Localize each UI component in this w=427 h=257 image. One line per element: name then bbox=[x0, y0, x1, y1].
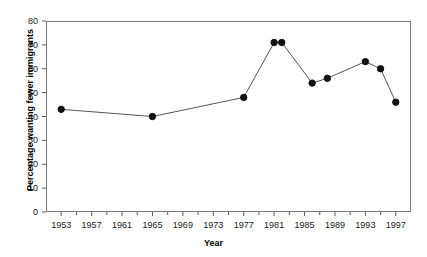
x-tick-label: 1969 bbox=[166, 221, 200, 230]
data-point-marker bbox=[393, 99, 399, 105]
x-tick-label: 1965 bbox=[135, 221, 169, 230]
data-point-marker bbox=[241, 94, 247, 100]
x-tick-label: 1981 bbox=[257, 221, 291, 230]
data-point-marker bbox=[58, 106, 64, 112]
x-tick-label: 1961 bbox=[105, 221, 139, 230]
x-tick-label: 1985 bbox=[288, 221, 322, 230]
x-tick-label: 1957 bbox=[75, 221, 109, 230]
x-tick-label: 1953 bbox=[44, 221, 78, 230]
data-point-marker bbox=[279, 39, 285, 45]
data-point-marker bbox=[377, 66, 383, 72]
x-axis-title: Year bbox=[0, 238, 427, 248]
x-tick-label: 1997 bbox=[379, 221, 413, 230]
x-tick-label: 1977 bbox=[227, 221, 261, 230]
data-point-marker bbox=[149, 113, 155, 119]
line-chart: 01020304050607080 1953195719611965196919… bbox=[0, 0, 427, 257]
data-point-marker bbox=[271, 39, 277, 45]
data-point-marker bbox=[309, 80, 315, 86]
data-point-marker bbox=[324, 75, 330, 81]
series-layer bbox=[0, 0, 427, 257]
data-point-marker bbox=[362, 58, 368, 64]
x-tick-label: 1989 bbox=[318, 221, 352, 230]
y-axis-title: Percentage wanting fewer immigrants bbox=[25, 10, 35, 210]
x-tick-label: 1973 bbox=[196, 221, 230, 230]
x-tick-label: 1993 bbox=[348, 221, 382, 230]
